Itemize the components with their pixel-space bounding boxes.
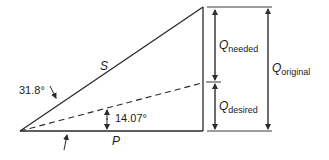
q-original-sub: original xyxy=(281,67,310,77)
label-angle-original: 31.8° xyxy=(19,84,45,96)
dashed-desired-line xyxy=(20,83,202,131)
q-original-main: Q xyxy=(272,61,281,75)
base-pointer-arrow xyxy=(64,135,67,150)
power-triangle-diagram: S P 31.8° 14.07° Qneeded Qdesired Qorigi… xyxy=(0,0,329,160)
q-desired-main: Q xyxy=(219,99,228,113)
hypotenuse-line-s xyxy=(20,7,203,131)
label-q-desired: Qdesired xyxy=(219,99,258,115)
angle-original-leader-arrow xyxy=(50,86,56,98)
label-p: P xyxy=(112,134,120,148)
label-q-original: Qoriginal xyxy=(272,61,310,77)
label-angle-desired: 14.07° xyxy=(115,112,147,124)
label-q-needed: Qneeded xyxy=(219,38,258,54)
label-s: S xyxy=(100,59,108,73)
q-desired-sub: desired xyxy=(228,105,258,115)
q-needed-main: Q xyxy=(219,38,228,52)
q-needed-sub: needed xyxy=(228,44,258,54)
